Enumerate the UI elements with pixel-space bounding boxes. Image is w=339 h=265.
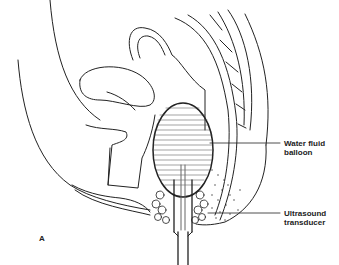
label-line: balloon xyxy=(284,148,325,157)
label-line: Water fluid xyxy=(284,139,325,148)
label-ultrasound-transducer: Ultrasound transducer xyxy=(284,209,326,227)
label-line: Ultrasound xyxy=(284,209,326,218)
panel-label: A xyxy=(39,234,45,243)
label-water-fluid-balloon: Water fluid balloon xyxy=(284,139,325,157)
label-line: transducer xyxy=(284,218,326,227)
anatomical-diagram: Water fluid balloon Ultrasound transduce… xyxy=(0,0,339,265)
